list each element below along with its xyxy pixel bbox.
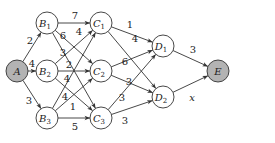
node-letter: B: [38, 113, 46, 124]
edge-weight-label: 4: [132, 33, 138, 44]
node-subscript: 1: [101, 23, 105, 31]
edge-weight-label: x: [189, 92, 195, 103]
edge-c2-d1: [111, 50, 153, 67]
edge-weight-label: 4: [29, 58, 35, 69]
network-diagram: 2437463244151463333x AB1B2B3C1C2C3D1D2E: [0, 0, 275, 143]
edge-weight-label: 2: [66, 59, 72, 70]
edge-weight-label: 3: [126, 76, 132, 87]
edge-c3-d2: [111, 101, 152, 115]
node-b2: B2: [36, 60, 58, 82]
node-letter: D: [154, 41, 163, 52]
node-subscript: 2: [101, 71, 105, 79]
edge-d2-e: [173, 76, 208, 93]
node-c3: C3: [90, 107, 112, 129]
node-subscript: 3: [46, 118, 50, 126]
edge-weight-label: 1: [70, 101, 76, 112]
edge-weight-label: 6: [60, 30, 66, 41]
node-letter: D: [154, 92, 163, 103]
node-d2: D2: [152, 86, 174, 108]
node-c1: C1: [90, 12, 112, 34]
edge-weight-label: 3: [119, 92, 125, 103]
edge-weight-label: 4: [64, 73, 70, 84]
network-diagram-svg: 2437463244151463333x AB1B2B3C1C2C3D1D2E: [0, 0, 275, 143]
node-b1: B1: [36, 12, 58, 34]
node-subscript: 2: [163, 97, 167, 105]
node-e: E: [207, 60, 229, 82]
node-subscript: 3: [101, 118, 105, 126]
edge-weight-label: 7: [72, 10, 78, 21]
node-d1: D1: [152, 35, 174, 57]
edge-weight-label: 2: [27, 35, 33, 46]
edge-weight-label: 5: [72, 121, 78, 132]
node-subscript: 1: [46, 23, 50, 31]
edge-weight-label: 3: [122, 115, 128, 126]
node-c2: C2: [90, 60, 112, 82]
node-letter: A: [12, 66, 20, 77]
node-label: E: [213, 66, 222, 77]
edge-weight-label: 6: [122, 56, 128, 67]
node-subscript: 2: [46, 71, 50, 79]
node-letter: B: [38, 66, 46, 77]
node-letter: E: [213, 66, 222, 77]
edge-weight-label: 1: [127, 19, 133, 30]
node-b3: B3: [36, 107, 58, 129]
node-letter: B: [38, 18, 46, 29]
edge-weight-label: 4: [76, 26, 82, 37]
edge-weight-label: 4: [62, 91, 68, 102]
node-subscript: 1: [163, 46, 167, 54]
edge-weight-label: 3: [26, 95, 32, 106]
node-a: A: [6, 60, 28, 82]
edge-weight-label: 3: [60, 47, 66, 58]
edge-weight-label: 3: [190, 44, 196, 55]
node-label: A: [12, 66, 20, 77]
